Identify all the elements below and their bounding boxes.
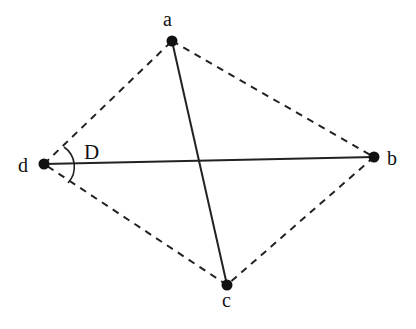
dashed-edge-b-c — [227, 157, 374, 285]
dashed-edge-c-d — [44, 164, 227, 285]
angle-arc-d — [64, 147, 74, 183]
label-c: c — [222, 289, 231, 311]
angle-label-D: D — [84, 140, 99, 164]
point-d — [39, 159, 50, 170]
point-a — [167, 36, 178, 47]
quadrilateral-diagram: a b c d D — [0, 0, 416, 329]
label-b: b — [387, 147, 397, 169]
label-d: d — [18, 154, 28, 176]
dashed-edge-d-a — [44, 41, 172, 164]
dashed-edge-a-b — [172, 41, 374, 157]
label-a: a — [163, 8, 172, 30]
point-b — [369, 152, 380, 163]
solid-edge-a-c — [172, 41, 227, 285]
